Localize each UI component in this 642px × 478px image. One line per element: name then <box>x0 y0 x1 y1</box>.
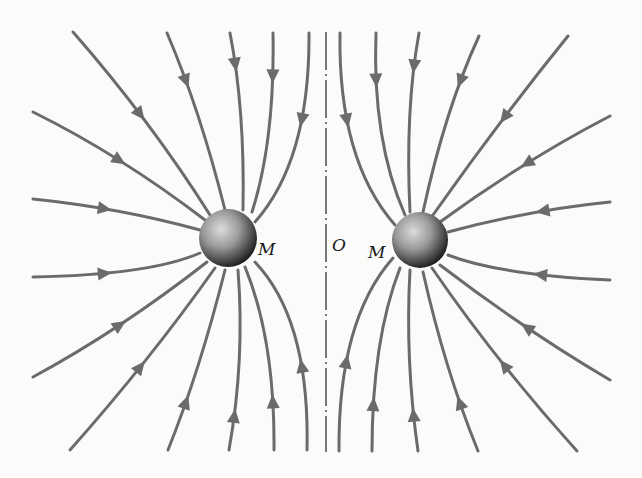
field-line <box>33 253 200 277</box>
arrow-head-icon <box>178 72 195 90</box>
arrow-head-icon <box>366 397 380 412</box>
right-mass-label: M <box>367 242 386 262</box>
right-mass-sphere <box>392 212 448 268</box>
arrow-head-icon <box>369 73 383 88</box>
field-line <box>339 258 393 451</box>
field-line <box>423 272 478 451</box>
field-line <box>70 268 215 450</box>
field-line <box>423 36 479 212</box>
masses <box>199 209 448 268</box>
arrow-head-icon <box>178 393 195 411</box>
field-line <box>33 262 207 377</box>
arrow-head-icon <box>266 69 279 83</box>
field-line <box>372 268 400 451</box>
field-line <box>252 33 273 212</box>
field-line <box>73 32 210 215</box>
left-mass-label: M <box>257 239 276 259</box>
arrow-head-icon <box>532 267 547 282</box>
field-lines <box>33 32 610 451</box>
arrow-head-icon <box>111 315 130 334</box>
field-line <box>409 270 418 451</box>
field-line <box>255 33 309 222</box>
field-line <box>168 270 225 450</box>
field-line <box>340 33 395 225</box>
arrow-head-icon <box>110 151 129 169</box>
field-line <box>433 36 568 215</box>
arrow-head-icon <box>451 394 468 411</box>
field-line <box>448 202 610 232</box>
arrow-head-icon <box>97 266 112 280</box>
arrow-head-icon <box>227 408 242 424</box>
field-line <box>33 199 200 230</box>
field-line <box>376 33 405 215</box>
arrow-head-icon <box>266 394 280 409</box>
gravitational-field-diagram: M O M <box>0 0 642 478</box>
left-mass-sphere <box>199 209 257 267</box>
arrow-head-icon <box>517 318 536 337</box>
origin-label: O <box>332 235 346 255</box>
arrow-head-icon <box>407 59 422 74</box>
arrow-head-icon <box>406 407 420 422</box>
field-line <box>255 262 307 450</box>
field-line <box>167 33 225 210</box>
arrow-head-icon <box>517 154 536 172</box>
diagram-canvas: M O M <box>0 0 642 478</box>
field-line <box>440 265 610 380</box>
field-line <box>448 255 610 280</box>
arrow-head-icon <box>452 72 469 90</box>
field-line <box>432 268 577 451</box>
field-line <box>245 267 274 450</box>
